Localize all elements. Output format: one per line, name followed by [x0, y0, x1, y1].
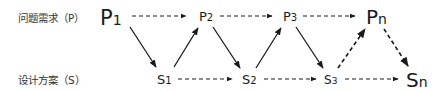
edge-P1-S1 [130, 27, 156, 67]
node-S2: S2 [242, 72, 257, 87]
co-evolution-diagram: P1 P2 P3 Pn S1 S2 S3 Sn [0, 0, 444, 91]
node-S3: S3 [324, 73, 337, 87]
edge-S3-Pn [338, 29, 365, 68]
node-P3: P3 [283, 9, 297, 24]
node-Sn: Sn [406, 68, 428, 91]
svg-text:P2: P2 [199, 9, 213, 24]
svg-text:Pn: Pn [366, 5, 387, 29]
svg-text:S1: S1 [157, 72, 172, 87]
svg-text:P3: P3 [283, 9, 297, 24]
svg-text:S2: S2 [242, 72, 257, 87]
edge-Pn-Sn [384, 29, 408, 66]
edge-S1-P2 [174, 28, 198, 67]
svg-text:P1: P1 [100, 6, 122, 30]
edge-S2-P3 [256, 28, 281, 68]
edge-P2-S2 [213, 27, 240, 68]
edge-P3-S3 [296, 27, 323, 68]
node-Pn: Pn [366, 5, 387, 29]
node-P2: P2 [199, 9, 213, 24]
svg-text:S3: S3 [324, 73, 337, 87]
node-S1: S1 [157, 72, 172, 87]
node-P1: P1 [100, 6, 122, 30]
svg-text:Sn: Sn [406, 68, 428, 91]
